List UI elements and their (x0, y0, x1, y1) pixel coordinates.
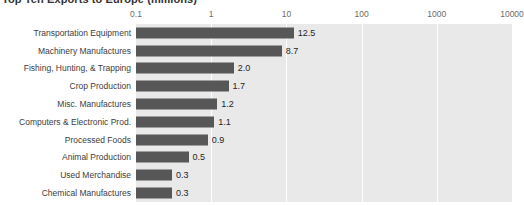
bar (136, 188, 172, 199)
bar (136, 152, 189, 163)
x-tick-label: 10 (282, 9, 291, 19)
bar-value-label: 2.0 (238, 63, 251, 73)
category-label: Used Merchandise (60, 170, 131, 180)
chart-row: Processed Foods0.9 (0, 131, 521, 149)
bar-value-label: 0.9 (212, 135, 225, 145)
chart-title: Top Ten Exports to Europe (millions) (2, 0, 197, 5)
x-tick-label: 1000 (427, 9, 446, 19)
bar (136, 116, 214, 127)
bar (136, 81, 229, 92)
category-label: Animal Production (62, 152, 131, 162)
x-tick-label: 100 (355, 9, 369, 19)
x-axis-tick-labels: 0.1110100100010000 (0, 9, 521, 23)
bar-value-label: 8.7 (286, 46, 299, 56)
category-label: Processed Foods (65, 135, 131, 145)
x-tick-label: 0.1 (130, 9, 142, 19)
chart-row: Misc. Manufactures1.2 (0, 95, 521, 113)
chart-row: Machinery Manufactures8.7 (0, 42, 521, 60)
category-label: Chemical Manufactures (42, 188, 131, 198)
bar-value-label: 12.5 (298, 28, 316, 38)
bar (136, 27, 294, 38)
bar (136, 170, 172, 181)
chart-row: Used Merchandise0.3 (0, 166, 521, 184)
chart-rows: Transportation Equipment12.5Machinery Ma… (0, 24, 521, 202)
bar (136, 134, 208, 145)
chart-row: Chemical Manufactures0.3 (0, 184, 521, 202)
bar-value-label: 0.3 (176, 188, 189, 198)
x-tick-label: 10000 (500, 9, 524, 19)
bar-value-label: 1.1 (218, 117, 231, 127)
bar-value-label: 0.5 (193, 152, 206, 162)
chart-row: Fishing, Hunting, & Trapping2.0 (0, 60, 521, 78)
category-label: Transportation Equipment (34, 28, 132, 38)
bar-value-label: 1.7 (233, 81, 246, 91)
bar (136, 45, 282, 56)
chart-row: Animal Production0.5 (0, 149, 521, 167)
chart-row: Computers & Electronic Prod.1.1 (0, 113, 521, 131)
category-label: Misc. Manufactures (57, 99, 131, 109)
category-label: Machinery Manufactures (38, 46, 131, 56)
category-label: Crop Production (70, 81, 131, 91)
bar-value-label: 1.2 (221, 99, 234, 109)
chart-row: Crop Production1.7 (0, 77, 521, 95)
bar-value-label: 0.3 (176, 170, 189, 180)
x-tick-label: 1 (209, 9, 214, 19)
category-label: Fishing, Hunting, & Trapping (24, 63, 131, 73)
chart-row: Transportation Equipment12.5 (0, 24, 521, 42)
bar (136, 99, 217, 110)
category-label: Computers & Electronic Prod. (19, 117, 131, 127)
bar (136, 63, 234, 74)
